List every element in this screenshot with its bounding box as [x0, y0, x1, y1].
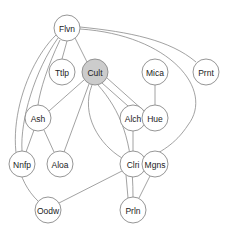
edge-mgns-prln: [139, 176, 150, 198]
node-mgns[interactable]: Mgns: [142, 151, 168, 177]
node-flvn[interactable]: Flvn: [54, 15, 80, 41]
node-label: Ash: [31, 114, 46, 124]
node-nnfp[interactable]: Nnfp: [9, 151, 35, 177]
graph-canvas: FlvnTtlpCultMicaPrntAshAlchHueNnfpAloaCl…: [0, 0, 230, 227]
node-label: Nnfp: [13, 160, 31, 170]
nodes-layer: FlvnTtlpCultMicaPrntAshAlchHueNnfpAloaCl…: [9, 15, 219, 223]
node-prln[interactable]: Prln: [120, 197, 146, 223]
node-label: Mica: [146, 68, 164, 78]
node-mica[interactable]: Mica: [142, 59, 168, 85]
node-label: Hue: [147, 114, 163, 124]
node-cult[interactable]: Cult: [82, 59, 108, 85]
node-oodw[interactable]: Oodw: [35, 197, 61, 223]
node-hue[interactable]: Hue: [142, 105, 168, 131]
node-label: Ttlp: [55, 68, 69, 78]
edge-flvn-cult: [75, 38, 87, 62]
edge-clri-prln: [126, 175, 128, 198]
node-label: Flvn: [59, 24, 75, 34]
node-label: Clri: [127, 160, 140, 170]
node-ash[interactable]: Ash: [25, 105, 51, 131]
edge-clri-oodw: [59, 171, 122, 203]
node-label: Cult: [87, 68, 103, 78]
node-label: Alch: [125, 114, 142, 124]
node-label: Aloa: [51, 160, 68, 170]
edge-ash-aloa: [44, 130, 54, 152]
edge-ash-nnfp: [26, 130, 34, 152]
node-label: Prln: [125, 206, 140, 216]
edge-flvn-prnt: [80, 27, 196, 62]
node-label: Prnt: [198, 68, 214, 78]
node-prnt[interactable]: Prnt: [193, 59, 219, 85]
node-label: Oodw: [37, 206, 60, 216]
node-ttlp[interactable]: Ttlp: [49, 59, 75, 85]
edge-flvn-ttlp: [62, 41, 67, 59]
node-aloa[interactable]: Aloa: [47, 151, 73, 177]
edge-flvn-clri: [80, 29, 196, 160]
node-label: Mgns: [145, 160, 166, 170]
